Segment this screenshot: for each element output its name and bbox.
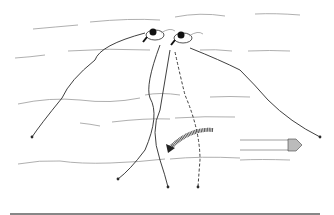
- water-line: [210, 97, 250, 98]
- water-line: [80, 123, 100, 126]
- water-line: [112, 119, 170, 122]
- water-line: [170, 157, 240, 159]
- water-line: [175, 117, 235, 118]
- swimmer-head: [150, 29, 157, 36]
- swimmer-arm: [143, 37, 147, 42]
- trajectory-lines: [31, 33, 322, 188]
- water-line: [175, 14, 225, 17]
- water-line: [18, 98, 140, 104]
- water-line: [15, 55, 45, 58]
- line-end-dot: [167, 186, 170, 189]
- water-line: [33, 25, 78, 29]
- swimmer-right: [171, 32, 203, 46]
- straight-arrow-head-icon: [288, 139, 302, 151]
- water-line: [68, 49, 150, 51]
- swimmer-left: [143, 29, 175, 43]
- water-line: [255, 14, 300, 15]
- water-line: [200, 50, 232, 51]
- line-right: [190, 48, 320, 137]
- water-line: [240, 160, 290, 161]
- line-left: [32, 33, 145, 137]
- curved-arrow-icon: [170, 130, 213, 148]
- water-line: [248, 51, 290, 52]
- swim-diagram-svg: [0, 0, 334, 215]
- swimmer-arm: [171, 40, 175, 45]
- direction-arrows: [166, 130, 302, 153]
- line-end-dot: [117, 178, 120, 181]
- line-dashed: [175, 52, 200, 187]
- line-end-dot: [197, 186, 200, 189]
- swimmer-head: [178, 32, 185, 39]
- line-end-dot: [31, 136, 34, 139]
- water-line: [90, 19, 160, 22]
- water-line: [18, 159, 165, 164]
- line-end-dot: [319, 136, 322, 139]
- water-surface-lines: [15, 14, 300, 164]
- illustration: [0, 0, 334, 215]
- line-center-left: [118, 45, 160, 179]
- swimmers: [143, 29, 203, 46]
